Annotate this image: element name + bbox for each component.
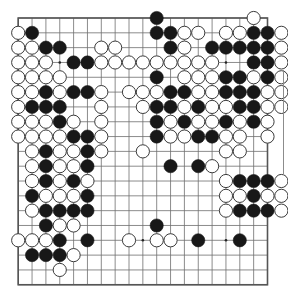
black-stone[interactable] [81, 86, 94, 99]
white-stone[interactable] [192, 56, 205, 69]
black-stone[interactable] [233, 100, 246, 113]
black-stone[interactable] [233, 204, 246, 217]
black-stone[interactable] [81, 130, 94, 143]
white-stone[interactable] [219, 130, 232, 143]
black-stone[interactable] [233, 71, 246, 84]
white-stone[interactable] [164, 56, 177, 69]
black-stone[interactable] [53, 234, 66, 247]
white-stone[interactable] [95, 130, 108, 143]
black-stone[interactable] [261, 26, 274, 39]
white-stone[interactable] [136, 100, 149, 113]
white-stone[interactable] [206, 160, 219, 173]
black-stone[interactable] [261, 174, 274, 187]
black-stone[interactable] [81, 234, 94, 247]
white-stone[interactable] [95, 86, 108, 99]
black-stone[interactable] [261, 56, 274, 69]
black-stone[interactable] [247, 86, 260, 99]
black-stone[interactable] [53, 41, 66, 54]
black-stone[interactable] [247, 204, 260, 217]
white-stone[interactable] [39, 71, 52, 84]
white-stone[interactable] [178, 56, 191, 69]
white-stone[interactable] [39, 115, 52, 128]
board-graphics[interactable] [0, 0, 288, 301]
white-stone[interactable] [109, 41, 122, 54]
white-stone[interactable] [67, 189, 80, 202]
white-stone[interactable] [25, 174, 38, 187]
white-stone[interactable] [247, 71, 260, 84]
white-stone[interactable] [261, 86, 274, 99]
white-stone[interactable] [67, 160, 80, 173]
white-stone[interactable] [25, 86, 38, 99]
black-stone[interactable] [219, 71, 232, 84]
black-stone[interactable] [81, 160, 94, 173]
white-stone[interactable] [233, 145, 246, 158]
white-stone[interactable] [12, 71, 25, 84]
white-stone[interactable] [219, 189, 232, 202]
white-stone[interactable] [53, 189, 66, 202]
black-stone[interactable] [25, 189, 38, 202]
black-stone[interactable] [67, 130, 80, 143]
white-stone[interactable] [109, 56, 122, 69]
black-stone[interactable] [164, 86, 177, 99]
black-stone[interactable] [53, 204, 66, 217]
black-stone[interactable] [150, 130, 163, 143]
white-stone[interactable] [178, 130, 191, 143]
white-stone[interactable] [275, 174, 288, 187]
white-stone[interactable] [53, 86, 66, 99]
white-stone[interactable] [178, 26, 191, 39]
white-stone[interactable] [178, 100, 191, 113]
black-stone[interactable] [39, 174, 52, 187]
black-stone[interactable] [178, 115, 191, 128]
white-stone[interactable] [233, 130, 246, 143]
black-stone[interactable] [67, 174, 80, 187]
white-stone[interactable] [233, 115, 246, 128]
white-stone[interactable] [136, 56, 149, 69]
white-stone[interactable] [275, 26, 288, 39]
white-stone[interactable] [122, 56, 135, 69]
black-stone[interactable] [247, 189, 260, 202]
black-stone[interactable] [261, 204, 274, 217]
stones-layer[interactable] [12, 11, 288, 276]
black-stone[interactable] [247, 41, 260, 54]
white-stone[interactable] [95, 145, 108, 158]
white-stone[interactable] [275, 204, 288, 217]
black-stone[interactable] [247, 174, 260, 187]
white-stone[interactable] [219, 100, 232, 113]
white-stone[interactable] [136, 86, 149, 99]
white-stone[interactable] [39, 130, 52, 143]
white-stone[interactable] [53, 130, 66, 143]
black-stone[interactable] [164, 26, 177, 39]
white-stone[interactable] [178, 71, 191, 84]
white-stone[interactable] [150, 234, 163, 247]
black-stone[interactable] [150, 219, 163, 232]
white-stone[interactable] [12, 234, 25, 247]
white-stone[interactable] [39, 56, 52, 69]
black-stone[interactable] [261, 71, 274, 84]
white-stone[interactable] [25, 160, 38, 173]
black-stone[interactable] [67, 56, 80, 69]
black-stone[interactable] [233, 234, 246, 247]
white-stone[interactable] [192, 115, 205, 128]
white-stone[interactable] [247, 11, 260, 24]
black-stone[interactable] [150, 115, 163, 128]
black-stone[interactable] [233, 86, 246, 99]
white-stone[interactable] [150, 86, 163, 99]
black-stone[interactable] [247, 56, 260, 69]
white-stone[interactable] [67, 115, 80, 128]
white-stone[interactable] [206, 71, 219, 84]
white-stone[interactable] [261, 189, 274, 202]
black-stone[interactable] [39, 204, 52, 217]
white-stone[interactable] [122, 234, 135, 247]
white-stone[interactable] [219, 26, 232, 39]
white-stone[interactable] [122, 86, 135, 99]
white-stone[interactable] [95, 100, 108, 113]
black-stone[interactable] [53, 249, 66, 262]
black-stone[interactable] [39, 219, 52, 232]
black-stone[interactable] [25, 100, 38, 113]
black-stone[interactable] [206, 130, 219, 143]
black-stone[interactable] [178, 86, 191, 99]
black-stone[interactable] [150, 11, 163, 24]
white-stone[interactable] [178, 41, 191, 54]
white-stone[interactable] [12, 41, 25, 54]
white-stone[interactable] [206, 115, 219, 128]
